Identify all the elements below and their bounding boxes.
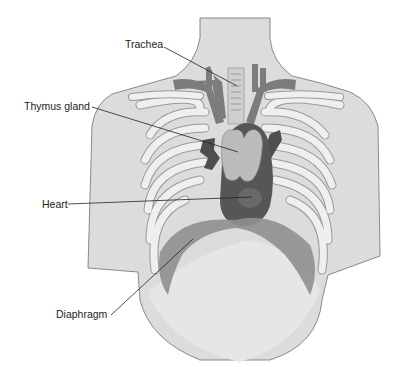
label-heart: Heart [42,198,68,210]
thymus-gland [222,130,263,182]
label-trachea: Trachea [125,38,163,50]
label-diaphragm: Diaphragm [56,308,107,320]
trachea [228,68,244,124]
label-thymus-gland: Thymus gland [24,100,90,112]
heart-highlight [238,188,262,208]
